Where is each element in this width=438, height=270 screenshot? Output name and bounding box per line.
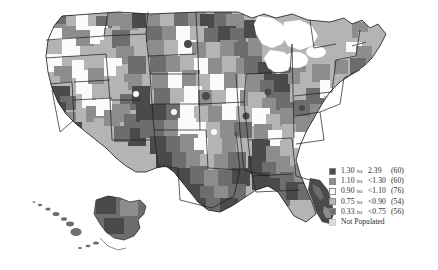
legend-high-3: <1.10 xyxy=(368,187,389,195)
legend-count-1: (60) xyxy=(391,167,404,175)
legend-to-2: to xyxy=(357,177,368,185)
legend-swatch-class-2 xyxy=(329,178,336,185)
legend-low-4: 0.75 xyxy=(341,198,357,206)
legend-count-3: (76) xyxy=(391,187,404,195)
legend-count-5: (56) xyxy=(391,208,404,216)
legend-low-5: 0.33 xyxy=(341,208,357,216)
legend-swatch-class-5 xyxy=(329,208,336,215)
legend-row: 1.30to2.39(60) xyxy=(329,166,433,176)
legend-to-1: to xyxy=(357,167,368,175)
legend-swatch-class-1 xyxy=(329,168,336,175)
map-legend: 1.30to2.39(60) 1.10to<1.30(60) 0.90to<1.… xyxy=(329,166,433,227)
legend-low-2: 1.10 xyxy=(341,177,357,185)
figure-panel: 1.30to2.39(60) 1.10to<1.30(60) 0.90to<1.… xyxy=(0,0,438,270)
legend-swatch-not-populated xyxy=(329,219,336,226)
legend-high-1: 2.39 xyxy=(368,167,389,175)
legend-to-5: to xyxy=(357,208,368,216)
legend-row: 0.33to<0.75(56) xyxy=(329,207,433,217)
legend-row: 1.10to<1.30(60) xyxy=(329,176,433,186)
legend-to-3: to xyxy=(357,187,368,195)
legend-high-2: <1.30 xyxy=(368,177,389,185)
legend-to-4: to xyxy=(357,198,368,206)
legend-high-5: <0.75 xyxy=(368,208,389,216)
legend-swatch-class-4 xyxy=(329,198,336,205)
legend-row-not-populated: Not Populated xyxy=(329,217,433,227)
us-county-choropleth-map xyxy=(0,0,438,270)
legend-count-4: (54) xyxy=(391,198,404,206)
legend-high-4: <0.90 xyxy=(368,198,389,206)
legend-label-not-populated: Not Populated xyxy=(341,218,385,226)
legend-low-1: 1.30 xyxy=(341,167,357,175)
legend-row: 0.90to<1.10(76) xyxy=(329,186,433,196)
legend-swatch-class-3 xyxy=(329,188,336,195)
legend-count-2: (60) xyxy=(391,177,404,185)
legend-low-3: 0.90 xyxy=(341,187,357,195)
legend-row: 0.75to<0.90(54) xyxy=(329,197,433,207)
